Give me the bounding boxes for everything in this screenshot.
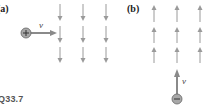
field-arrow-down-icon: [58, 47, 63, 63]
panel-a-field-arrows: [58, 4, 109, 63]
panel-b-velocity-label: v⃗: [182, 76, 193, 86]
panel-a-velocity-label: v⃗: [39, 20, 50, 30]
field-arrow-down-icon: [81, 26, 86, 43]
figure-label: Q33.7: [0, 94, 24, 104]
panel-b-field-arrows: [152, 5, 203, 63]
positive-charge-icon: [21, 28, 31, 38]
field-arrow-up-icon: [198, 27, 203, 43]
field-arrow-down-icon: [81, 4, 86, 21]
field-arrow-down-icon: [104, 4, 109, 21]
field-arrow-down-icon: [104, 47, 109, 63]
negative-charge-icon: [172, 94, 182, 104]
field-arrow-up-icon: [152, 5, 157, 22]
field-arrow-down-icon: [104, 26, 109, 43]
field-arrow-up-icon: [152, 47, 157, 63]
field-arrow-up-icon: [175, 27, 180, 43]
field-arrow-up-icon: [152, 27, 157, 43]
magnetic-field-diagram: [0, 0, 207, 106]
panel-a-velocity-arrow-right-icon: [30, 30, 57, 36]
panel-b-velocity-arrow-up-icon: [174, 69, 180, 94]
field-arrow-up-icon: [175, 47, 180, 63]
field-arrow-up-icon: [198, 47, 203, 63]
field-arrow-up-icon: [175, 5, 180, 22]
field-arrow-up-icon: [198, 5, 203, 22]
field-arrow-down-icon: [58, 4, 63, 21]
field-arrow-down-icon: [58, 26, 63, 43]
field-arrow-down-icon: [81, 47, 86, 63]
